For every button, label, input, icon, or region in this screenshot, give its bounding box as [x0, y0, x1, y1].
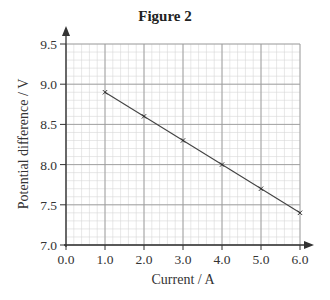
- best-fit-line: [105, 92, 300, 213]
- x-axis-arrow-icon: [304, 241, 314, 249]
- x-tick-label: 6.0: [292, 252, 309, 267]
- y-axis-label: Potential difference / V: [16, 79, 31, 210]
- data-series: [103, 90, 302, 215]
- x-tick-label: 5.0: [253, 252, 270, 267]
- x-axis-label: Current / A: [152, 272, 216, 287]
- x-tick-label: 2.0: [136, 252, 153, 267]
- y-tick-label: 8.0: [40, 158, 57, 173]
- y-tick-label: 9.0: [40, 77, 57, 92]
- tick-labels: 0.01.02.03.04.05.06.07.07.58.08.59.09.5: [40, 37, 309, 267]
- x-tick-label: 4.0: [214, 252, 231, 267]
- x-tick-label: 1.0: [97, 252, 114, 267]
- y-axis-arrow-icon: [62, 26, 70, 36]
- y-tick-label: 8.5: [40, 117, 57, 132]
- y-tick-label: 7.5: [40, 198, 57, 213]
- axes: [60, 26, 314, 250]
- line-chart: 0.01.02.03.04.05.06.07.07.58.08.59.09.5 …: [0, 0, 330, 300]
- y-tick-label: 7.0: [40, 238, 57, 253]
- x-tick-label: 0.0: [58, 252, 75, 267]
- y-tick-label: 9.5: [40, 37, 57, 52]
- x-tick-label: 3.0: [175, 252, 192, 267]
- major-grid: [66, 44, 300, 245]
